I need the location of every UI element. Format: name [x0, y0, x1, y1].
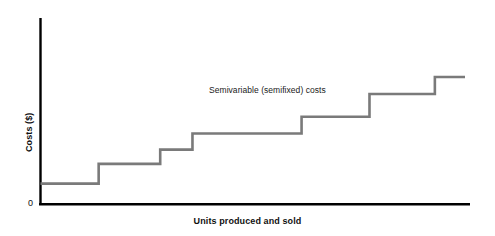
series-annotation-label: Semivariable (semifixed) costs — [209, 85, 326, 95]
x-axis-title: Units produced and sold — [0, 216, 495, 226]
y-origin-tick-label: 0 — [28, 198, 33, 208]
chart-figure: Semivariable (semifixed) costs Units pro… — [0, 0, 495, 236]
chart-plot-area — [0, 0, 495, 236]
axis-group — [39, 18, 470, 205]
y-axis-title: Costs ($) — [24, 113, 34, 152]
